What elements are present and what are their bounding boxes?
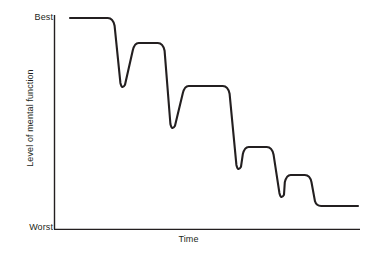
y-axis-tick-best: Best bbox=[35, 12, 53, 22]
mental-function-decline-curve bbox=[70, 18, 358, 206]
y-axis-title: Level of mental function bbox=[25, 33, 35, 203]
chart-container: Best Worst Level of mental function Time bbox=[0, 0, 377, 255]
y-axis-tick-worst: Worst bbox=[29, 222, 53, 232]
x-axis-title: Time bbox=[0, 234, 377, 244]
chart-plot-svg bbox=[0, 0, 377, 255]
